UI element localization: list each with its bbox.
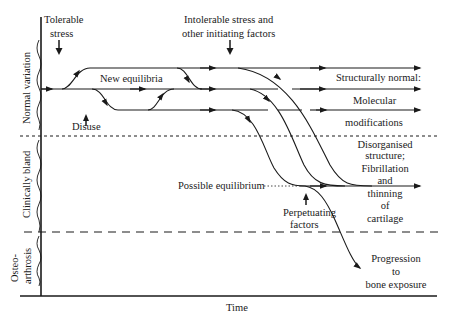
structurally-normal-label: Structurally normal: (336, 72, 421, 83)
fall-from-middle (250, 89, 345, 186)
annotations: Tolerable stress Intolerable stress and … (44, 14, 337, 230)
disorganised-label-line1: Disorganised (357, 139, 413, 150)
disuse-label: Disuse (72, 121, 101, 132)
disorganised-label-line6: of (381, 200, 390, 211)
zone-label-bland: Clinically bland (21, 150, 32, 218)
zone-label-oa-line1: Osteo- (9, 254, 20, 282)
new-equilibria-label: New equilibria (100, 73, 163, 84)
disorganised-label-line3: Fibrillation (361, 163, 409, 174)
molecular-label-line1: Molecular (353, 95, 397, 106)
intolerable-stress-label-line1: Intolerable stress and (184, 14, 274, 25)
progression-label-line3: bone exposure (366, 279, 427, 290)
x-axis-label: Time (226, 302, 248, 313)
perpetuating-factors-label-line2: factors (290, 219, 319, 230)
lower-return (148, 89, 174, 110)
possible-equilibrium-label: Possible equilibrium (178, 180, 265, 191)
perpetuating-factors-arrow-icon (303, 193, 309, 205)
intolerable-stress-arrow-icon (227, 40, 234, 55)
osteoarthrosis-progression-diagram: Time Normal variation Clinically bland O… (0, 0, 452, 317)
molecular-label-line2: modifications (345, 117, 403, 128)
disorganised-label-line4: and (377, 175, 393, 186)
zone-labels: Normal variation Clinically bland Osteo-… (9, 51, 33, 284)
progression-label-line2: to (392, 266, 400, 277)
disorganised-label-line7: cartilage (367, 213, 403, 224)
progression-label-line1: Progression (371, 253, 421, 264)
tolerable-stress-label-line2: stress (50, 28, 73, 39)
zone-label-oa-line2: arthrosis (22, 248, 33, 284)
tolerable-stress-arrow-icon (56, 40, 63, 55)
fall-from-lower (232, 110, 305, 186)
perpetuating-factors-label-line1: Perpetuating (283, 207, 337, 218)
top-return (177, 68, 202, 89)
zone-label-normal: Normal variation (21, 51, 32, 124)
disorganised-label-line5: thinning (367, 188, 403, 199)
disorganised-label-line2: structure; (365, 150, 405, 161)
tolerable-stress-label-line1: Tolerable (44, 14, 84, 25)
intolerable-stress-label-line2: other initiating factors (182, 28, 275, 39)
outcome-labels: Structurally normal: Molecular modificat… (336, 72, 427, 290)
